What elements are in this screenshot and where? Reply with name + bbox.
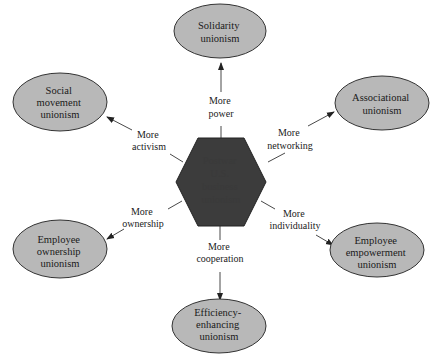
edge-line xyxy=(261,201,275,209)
edge-label-activism: More activism xyxy=(132,129,166,152)
edge-label-power: More power xyxy=(209,95,235,119)
edge-cooperation: More cooperation xyxy=(196,226,243,300)
edge-line xyxy=(168,201,182,209)
node-solidarity: Solidarity unionism xyxy=(174,4,266,58)
node-social: Social movement unionism xyxy=(13,73,107,131)
edge-line xyxy=(268,153,285,162)
edge-label-networking: More networking xyxy=(267,127,313,151)
center-node: Postwar U.S. business unionism xyxy=(176,138,266,226)
node-ellipse xyxy=(335,76,429,130)
node-label: Efficiency- enhancing unionism xyxy=(194,307,244,342)
edge-arrow xyxy=(316,235,333,245)
node-efficiency: Efficiency- enhancing unionism xyxy=(172,299,266,353)
edge-power: More power xyxy=(209,63,235,143)
edge-label-individuality: More individuality xyxy=(269,208,320,231)
node-label: Employee ownership unionism xyxy=(37,234,83,269)
node-associational: Associational unionism xyxy=(335,76,429,130)
node-ownership: Employee ownership unionism xyxy=(13,220,107,278)
edge-label-ownership: More ownership xyxy=(122,206,164,229)
edge-activism: More activism xyxy=(107,117,183,162)
edge-networking: More networking xyxy=(267,112,334,162)
node-empowerment: Employee empowerment unionism xyxy=(330,223,424,277)
union-types-diagram: More power More networking More individu… xyxy=(0,0,438,358)
edge-arrow xyxy=(308,112,334,126)
edge-individuality: More individuality xyxy=(261,201,333,245)
edge-arrow xyxy=(107,117,132,130)
edge-label-cooperation: More cooperation xyxy=(196,241,243,264)
edge-arrow xyxy=(107,229,124,239)
node-ellipse xyxy=(174,4,266,58)
edge-ownership: More ownership xyxy=(107,201,182,239)
edge-line xyxy=(170,154,183,162)
